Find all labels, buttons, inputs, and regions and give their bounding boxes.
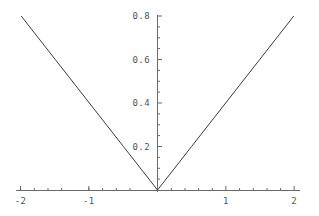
y-tick-label-2: 0.4	[120, 98, 150, 108]
x-tick-label-3: 2	[282, 196, 306, 206]
y-tick-label-1: 0.6	[120, 55, 150, 65]
y-tick-label-0: 0.8	[120, 11, 150, 21]
x-tick-label-2: 1	[214, 196, 238, 206]
x-tick-label-0: -2	[9, 196, 33, 206]
x-tick-label-1: -1	[77, 196, 101, 206]
x-axis-minor-ticks	[21, 188, 281, 190]
plot-canvas: 0.8 0.6 0.4 0.2 -2 -1 1 2	[0, 0, 319, 216]
plot-graphics	[0, 0, 319, 216]
y-axis-group	[158, 15, 163, 192]
y-tick-label-3: 0.2	[120, 142, 150, 152]
